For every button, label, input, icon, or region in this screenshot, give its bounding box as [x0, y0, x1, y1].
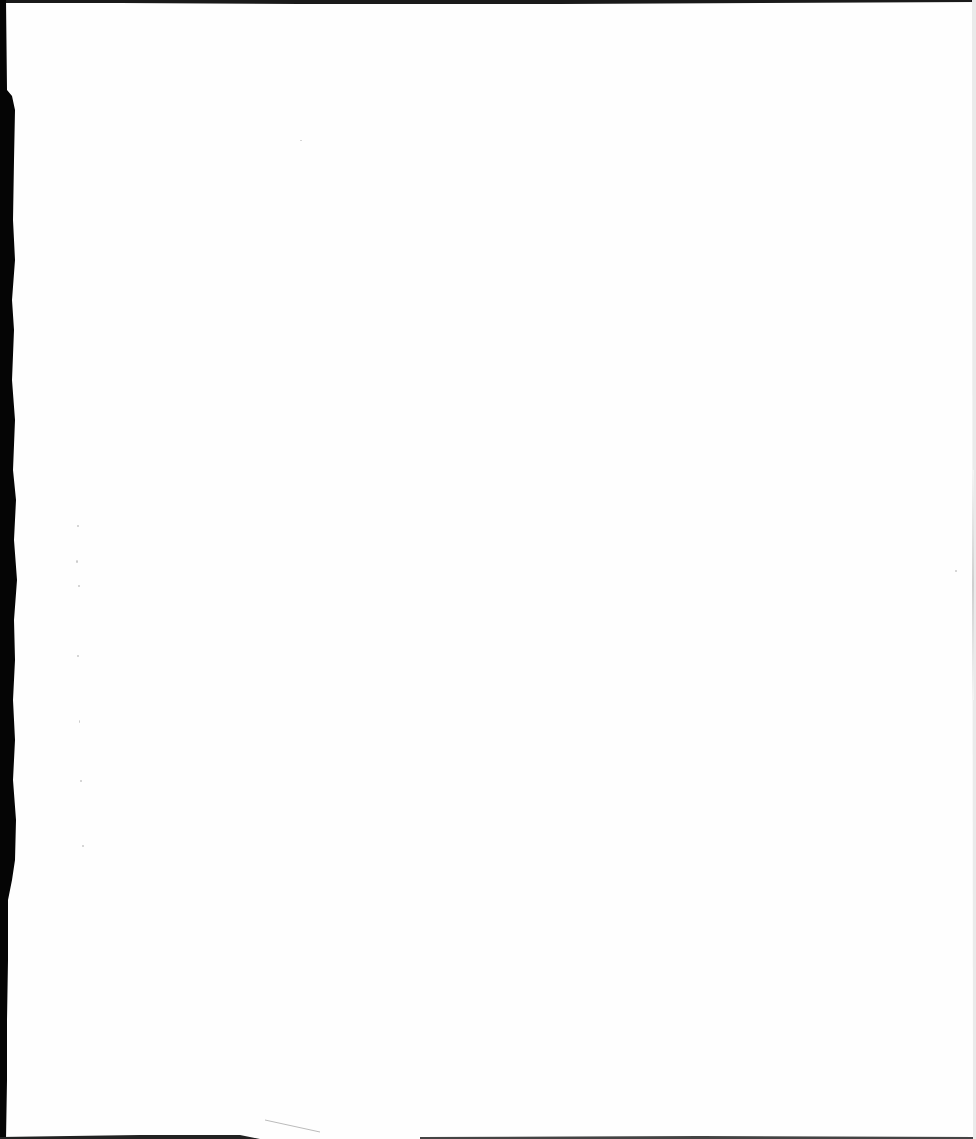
bleed-speck: [77, 525, 79, 527]
blank-scanned-page: [0, 0, 976, 1139]
bleed-speck: [79, 720, 80, 723]
bleed-speck: [77, 655, 79, 657]
bleed-speck: [300, 140, 302, 141]
bleed-speck: [76, 560, 78, 563]
bleed-speck: [955, 570, 957, 572]
scan-edge-shadow: [0, 0, 976, 1139]
bleed-speck: [82, 845, 84, 847]
right-scan-line: [972, 470, 974, 700]
bleed-speck: [78, 585, 80, 587]
bleed-speck: [80, 780, 82, 782]
